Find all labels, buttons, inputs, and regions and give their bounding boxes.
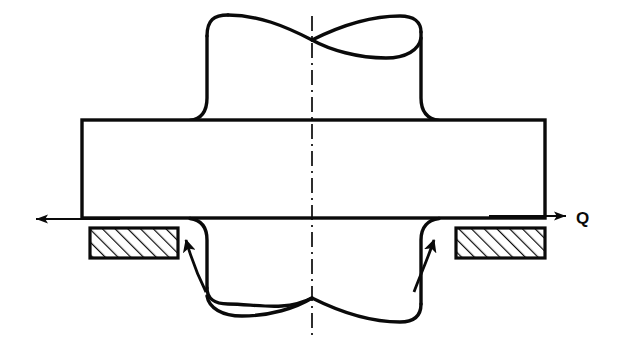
gasket-right xyxy=(456,228,545,258)
flange-plate xyxy=(82,120,545,218)
flange-plate-outline xyxy=(82,120,545,218)
load-label-q: Q xyxy=(576,209,589,228)
gasket-left-body xyxy=(90,228,178,258)
stress-arrow-right xyxy=(414,240,434,292)
pipe-top-ellipse-upper xyxy=(312,16,421,40)
gasket-left xyxy=(90,228,178,258)
pipe-upper-right-wall xyxy=(421,32,439,121)
pipe-top-ellipse-lower xyxy=(312,38,421,58)
stress-arrow-left xyxy=(186,240,206,292)
pipe-bottom-section-arc xyxy=(312,298,421,322)
pipe-bottom-ellipse-lower xyxy=(207,288,312,306)
pipe-lower-section xyxy=(190,219,439,323)
pipe-upper-left-wall-line xyxy=(190,36,207,121)
gasket-right-body xyxy=(456,228,545,258)
pipe-upper-section xyxy=(190,15,439,121)
pipe-top-section-arc xyxy=(228,15,312,40)
drawing-canvas: Q xyxy=(0,0,620,349)
pipe-lower-right-wall xyxy=(421,219,439,305)
pipe-upper-left-wall xyxy=(207,15,228,36)
engineering-drawing-figure: Q xyxy=(0,0,620,349)
